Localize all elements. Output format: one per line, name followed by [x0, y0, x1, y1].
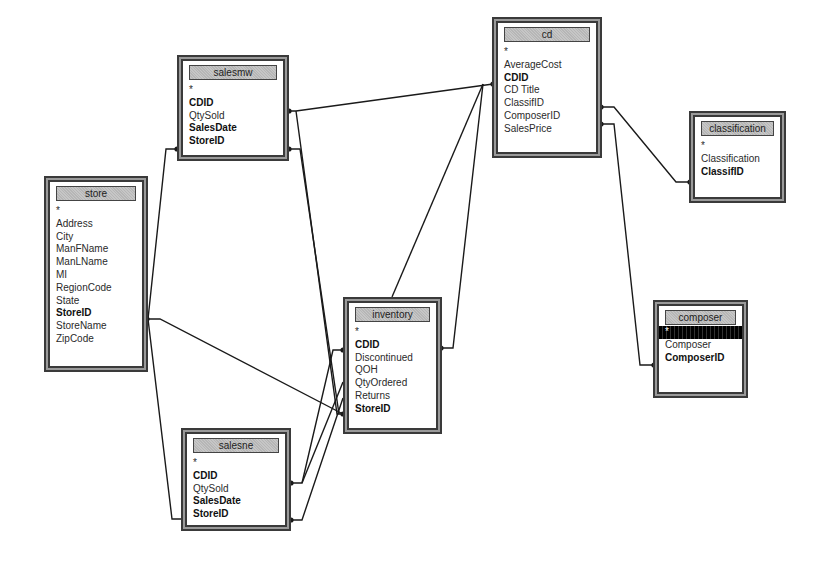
table-salesne[interactable]: salesne * CDID QtySold SalesDate StoreID [181, 428, 291, 531]
field-composerid[interactable]: ComposerID [504, 110, 590, 123]
field-zipcode[interactable]: ZipCode [56, 333, 136, 346]
relationship-line[interactable] [296, 111, 343, 414]
field-salesdate[interactable]: SalesDate [189, 122, 277, 135]
field-composer[interactable]: Composer [665, 339, 736, 352]
field-manfname[interactable]: ManFName [56, 243, 136, 256]
table-inventory[interactable]: inventory * CDID Discontinued QOH QtyOrd… [343, 297, 442, 434]
field-cdid[interactable]: CDID [189, 97, 277, 110]
field-cdid[interactable]: CDID [355, 339, 430, 352]
table-title[interactable]: composer [665, 310, 736, 325]
relationship-line[interactable] [601, 124, 654, 365]
relationship-line[interactable] [148, 149, 177, 319]
table-title[interactable]: cd [504, 27, 590, 42]
field-composerid[interactable]: ComposerID [665, 352, 736, 365]
field-storeid[interactable]: StoreID [193, 508, 279, 521]
field-averagecost[interactable]: AverageCost [504, 59, 590, 72]
field-qoh[interactable]: QOH [355, 364, 430, 377]
field-qtyordered[interactable]: QtyOrdered [355, 377, 430, 390]
relationship-line[interactable] [147, 319, 181, 519]
field-cd-title[interactable]: CD Title [504, 84, 590, 97]
field-salesdate[interactable]: SalesDate [193, 495, 279, 508]
relationship-line[interactable] [289, 84, 493, 111]
field-storeid[interactable]: StoreID [189, 135, 277, 148]
field-manlname[interactable]: ManLName [56, 256, 136, 269]
table-title[interactable]: salesne [193, 438, 279, 453]
field-classifid[interactable]: ClassifID [701, 166, 774, 179]
table-composer[interactable]: composer * Composer ComposerID [653, 300, 748, 398]
table-salesmw[interactable]: salesmw * CDID QtySold SalesDate StoreID [177, 55, 289, 161]
table-title[interactable]: classification [701, 121, 774, 136]
field-regioncode[interactable]: RegionCode [56, 282, 136, 295]
field-all[interactable]: * [193, 457, 279, 470]
table-title[interactable]: salesmw [189, 65, 277, 80]
field-qtysold[interactable]: QtySold [193, 483, 279, 496]
relationship-line[interactable] [601, 107, 690, 182]
field-mi[interactable]: MI [56, 269, 136, 282]
field-all[interactable]: * [355, 326, 430, 339]
table-cd[interactable]: cd * AverageCost CDID CD Title ClassifID… [492, 17, 602, 158]
field-cdid[interactable]: CDID [504, 72, 590, 85]
field-all[interactable]: * [504, 46, 590, 59]
field-all[interactable]: * [189, 84, 277, 97]
field-city[interactable]: City [56, 231, 136, 244]
field-returns[interactable]: Returns [355, 390, 430, 403]
field-storename[interactable]: StoreName [56, 320, 136, 333]
relationship-line[interactable] [291, 350, 343, 483]
field-all-selected[interactable]: * [659, 326, 742, 339]
field-address[interactable]: Address [56, 218, 136, 231]
field-cdid[interactable]: CDID [193, 470, 279, 483]
field-discontinued[interactable]: Discontinued [355, 352, 430, 365]
table-store[interactable]: store * Address City ManFName ManLName M… [44, 176, 148, 372]
field-storeid[interactable]: StoreID [355, 403, 430, 416]
field-storeid[interactable]: StoreID [56, 307, 136, 320]
relationship-line[interactable] [392, 84, 483, 297]
field-state[interactable]: State [56, 295, 136, 308]
relationship-line[interactable] [147, 319, 343, 414]
table-title[interactable]: store [56, 186, 136, 201]
field-qtysold[interactable]: QtySold [189, 110, 277, 123]
field-classifid[interactable]: ClassifID [504, 97, 590, 110]
field-classification[interactable]: Classification [701, 153, 774, 166]
table-title[interactable]: inventory [355, 307, 430, 322]
table-classification[interactable]: classification * Classification ClassifI… [689, 111, 786, 203]
field-all[interactable]: * [701, 140, 774, 153]
field-salesprice[interactable]: SalesPrice [504, 123, 590, 136]
field-all[interactable]: * [56, 205, 136, 218]
relationship-line[interactable] [441, 84, 483, 348]
